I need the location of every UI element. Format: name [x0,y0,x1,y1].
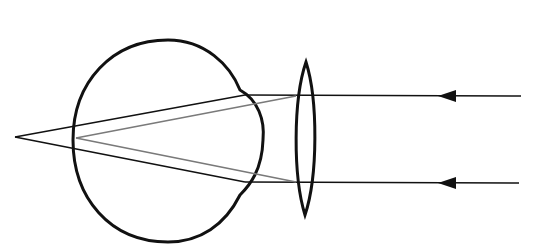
arrow-left-icon [438,90,456,102]
arrow-left-icon [438,177,456,189]
uncorrected-ray-top [15,95,245,137]
incoming-ray-bottom [245,182,519,183]
incoming-ray-top [245,95,521,96]
uncorrected-ray-bottom [15,137,245,182]
eyeball-outline [73,40,263,242]
hyperopia-correction-diagram [0,0,549,247]
converging-lens [296,62,315,215]
